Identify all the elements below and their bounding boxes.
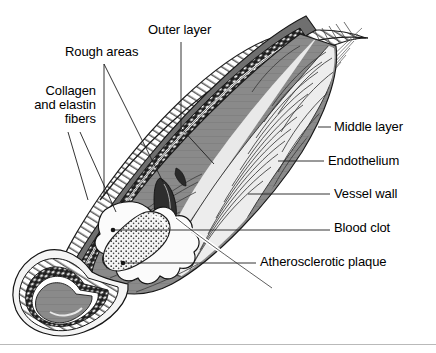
label-atherosclerotic-plaque: Atherosclerotic plaque [260, 255, 386, 269]
label-collagen-line-3: fibers [65, 111, 96, 126]
label-endothelium: Endothelium [328, 154, 399, 168]
label-collagen-elastin-fibers: Collagen and elastin fibers [2, 84, 96, 126]
leader-blood-clot-dot [111, 228, 116, 233]
label-rough-areas: Rough areas [65, 45, 138, 59]
label-middle-layer: Middle layer [334, 120, 403, 134]
leader-plaque-dot [121, 261, 126, 266]
label-vessel-wall: Vessel wall [334, 187, 397, 201]
label-collagen-line-1: Collagen [45, 83, 96, 98]
figure-canvas: Outer layer Rough areas Collagen and ela… [0, 0, 436, 353]
label-blood-clot: Blood clot [334, 221, 390, 235]
label-outer-layer: Outer layer [148, 23, 211, 37]
label-collagen-line-2: and elastin [34, 97, 96, 112]
bottom-divider [0, 344, 436, 345]
